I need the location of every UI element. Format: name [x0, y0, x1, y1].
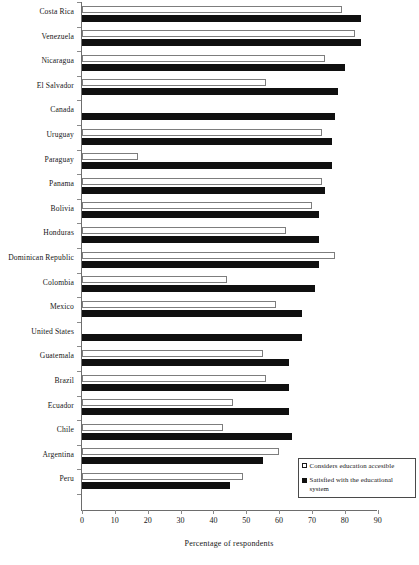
category-label: Colombia — [0, 278, 74, 288]
bar-satisfied-system — [82, 64, 345, 71]
bar-chart: Costa RicaVenezuelaNicaraguaEl SalvadorC… — [0, 0, 419, 565]
bar-considers-accessible — [82, 202, 312, 209]
plot-area: Costa RicaVenezuelaNicaraguaEl SalvadorC… — [0, 0, 419, 512]
bar-considers-accessible — [82, 424, 223, 431]
y-axis-tick — [77, 469, 81, 470]
chart-legend: Considers education accesible Satisfied … — [298, 458, 416, 498]
bar-considers-accessible — [82, 252, 335, 259]
bar-satisfied-system — [82, 285, 315, 292]
bar-satisfied-system — [82, 384, 289, 391]
legend-label-satisfied-system: Satisfied with the educational system — [310, 476, 413, 493]
category-label: Guatemala — [0, 351, 74, 361]
bar-satisfied-system — [82, 88, 338, 95]
category-row: Canada — [0, 100, 419, 125]
legend-item-considers-accessible: Considers education accesible — [302, 462, 412, 470]
y-axis-tick — [77, 150, 81, 151]
bar-satisfied-system — [82, 433, 292, 440]
y-axis-tick — [77, 494, 81, 495]
y-axis-tick — [77, 27, 81, 28]
category-row: Venezuela — [0, 27, 419, 52]
bar-considers-accessible — [82, 350, 263, 357]
bar-considers-accessible — [82, 473, 243, 480]
y-axis-tick — [77, 76, 81, 77]
category-row: Brazil — [0, 371, 419, 396]
category-row: Dominican Republic — [0, 248, 419, 273]
category-label: United States — [0, 327, 74, 337]
category-label: Costa Rica — [0, 7, 74, 17]
bar-satisfied-system — [82, 408, 289, 415]
category-row: Mexico — [0, 297, 419, 322]
category-row: El Salvador — [0, 76, 419, 101]
x-axis-tick — [246, 510, 247, 514]
y-axis-tick — [77, 125, 81, 126]
bar-satisfied-system — [82, 138, 332, 145]
x-axis-tick — [312, 510, 313, 514]
bar-satisfied-system — [82, 113, 335, 120]
category-label: Dominican Republic — [0, 253, 74, 263]
bar-considers-accessible — [82, 129, 322, 136]
legend-label-considers-accessible: Considers education accesible — [310, 462, 395, 470]
bar-considers-accessible — [82, 227, 286, 234]
category-label: Bolivia — [0, 204, 74, 214]
x-axis-tick — [115, 510, 116, 514]
open-square-icon — [302, 463, 307, 468]
bar-satisfied-system — [82, 482, 230, 489]
bar-considers-accessible — [82, 375, 266, 382]
category-row: Nicaragua — [0, 51, 419, 76]
category-row: Paraguay — [0, 150, 419, 175]
y-axis-tick — [77, 273, 81, 274]
x-axis-tick — [345, 510, 346, 514]
category-label: Nicaragua — [0, 56, 74, 66]
y-axis-tick — [77, 346, 81, 347]
bar-considers-accessible — [82, 448, 279, 455]
x-axis-tick-label: 90 — [358, 516, 398, 525]
x-axis-tick — [82, 510, 83, 514]
bar-satisfied-system — [82, 310, 302, 317]
bar-satisfied-system — [82, 457, 263, 464]
y-axis-tick — [77, 174, 81, 175]
bar-considers-accessible — [82, 6, 342, 13]
category-row: Uruguay — [0, 125, 419, 150]
category-label: Panama — [0, 179, 74, 189]
category-row: Chile — [0, 420, 419, 445]
bar-considers-accessible — [82, 30, 355, 37]
y-axis-tick — [77, 371, 81, 372]
category-label: Brazil — [0, 376, 74, 386]
bar-considers-accessible — [82, 399, 233, 406]
bar-satisfied-system — [82, 39, 361, 46]
category-label: El Salvador — [0, 81, 74, 91]
filled-square-icon — [302, 478, 307, 483]
category-row: Costa Rica — [0, 2, 419, 27]
bar-considers-accessible — [82, 178, 322, 185]
category-label: Canada — [0, 105, 74, 115]
x-axis-line — [81, 510, 377, 511]
bar-satisfied-system — [82, 359, 289, 366]
y-axis-tick — [77, 199, 81, 200]
y-axis-tick — [77, 420, 81, 421]
category-label: Mexico — [0, 302, 74, 312]
bar-considers-accessible — [82, 276, 227, 283]
category-row: Panama — [0, 174, 419, 199]
y-axis-tick — [77, 223, 81, 224]
bar-satisfied-system — [82, 15, 361, 22]
category-label: Argentina — [0, 450, 74, 460]
y-axis-tick — [77, 248, 81, 249]
bar-satisfied-system — [82, 211, 319, 218]
x-axis-tick — [378, 510, 379, 514]
category-row: Honduras — [0, 223, 419, 248]
y-axis-tick — [77, 2, 81, 3]
y-axis-tick — [77, 297, 81, 298]
y-axis-tick — [77, 51, 81, 52]
y-axis-tick — [77, 100, 81, 101]
category-label: Ecuador — [0, 401, 74, 411]
category-label: Venezuela — [0, 32, 74, 42]
bar-considers-accessible — [82, 301, 276, 308]
y-axis-tick — [77, 322, 81, 323]
bar-considers-accessible — [82, 153, 138, 160]
x-axis-tick — [181, 510, 182, 514]
bar-satisfied-system — [82, 187, 325, 194]
category-label: Paraguay — [0, 155, 74, 165]
bar-satisfied-system — [82, 236, 319, 243]
bar-satisfied-system — [82, 334, 302, 341]
category-label: Honduras — [0, 228, 74, 238]
